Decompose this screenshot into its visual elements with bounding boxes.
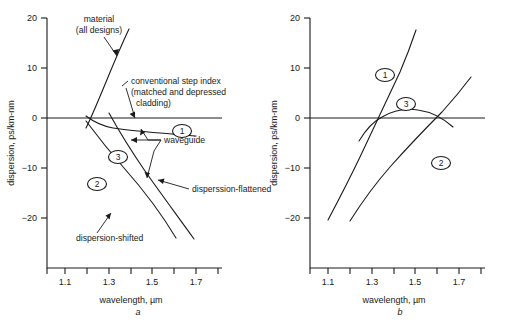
panel-a-curve-material	[86, 29, 129, 128]
panel-b-marker-3-label: 3	[404, 99, 409, 109]
panel-b-xaxis-title: wavelength, µm	[361, 295, 425, 305]
panel-a-marker-1: 1	[173, 125, 192, 138]
panel-a-xtick-1-1: 1.1	[59, 277, 72, 287]
panel-a-annot-conventional-line1: conventional step index	[131, 76, 222, 86]
panel-b-xtick-1-7: 1.7	[453, 277, 466, 287]
panel-a-yaxis-title: dispersion, ps/km-nm	[6, 100, 16, 186]
panel-a-marker-3-label: 3	[116, 152, 121, 162]
panel-b-xtick-1-3: 1.3	[366, 277, 379, 287]
dispersion-figure: 20 10 0 −10 −20 1.1 1.3 1.5 1.7 wav	[0, 0, 527, 328]
panel-a-leader-waveguide-down	[147, 140, 161, 178]
panel-a-marker-1-label: 1	[180, 126, 185, 136]
panel-b: 20 10 0 −10 −20 1.1 1.3 1.5 1.7 waveleng…	[269, 13, 485, 317]
panel-a-ytick-0: 0	[32, 113, 37, 123]
panel-a-xtick-1-3: 1.3	[103, 277, 116, 287]
panel-a-arrowhead-flattened	[158, 179, 165, 185]
panel-b-ytick-0: 0	[295, 113, 300, 123]
panel-a: 20 10 0 −10 −20 1.1 1.3 1.5 1.7 wav	[6, 13, 272, 317]
panel-b-ytick-neg20: −20	[285, 213, 300, 223]
panel-a-ytick-neg10: −10	[22, 163, 37, 173]
panel-a-ytick-20: 20	[27, 13, 37, 23]
panel-a-arrowhead-shifted	[106, 213, 112, 220]
panel-a-xtick-1-7: 1.7	[190, 277, 203, 287]
panel-a-letter: a	[135, 307, 140, 317]
panel-b-ytick-neg10: −10	[285, 163, 300, 173]
panel-b-yaxis-title: dispersion, ps/km-nm	[269, 100, 279, 186]
panel-a-xtick-1-5: 1.5	[146, 277, 159, 287]
panel-a-xaxis-title: wavelength, µm	[98, 295, 162, 305]
panel-a-annot-material-line2: (all designs)	[76, 25, 122, 35]
panel-a-y-ticks	[41, 18, 47, 218]
panel-a-annot-shifted: dispersion-shifted	[76, 233, 144, 243]
panel-b-x-ticks	[310, 268, 481, 274]
panel-a-annot-flattened: disperssion-flattened	[192, 184, 272, 194]
figure-container: 20 10 0 −10 −20 1.1 1.3 1.5 1.7 wav	[0, 0, 527, 328]
panel-a-ytick-neg20: −20	[22, 213, 37, 223]
panel-a-marker-3: 3	[109, 151, 128, 164]
panel-b-marker-2-label: 2	[439, 158, 444, 168]
panel-a-leader-waveguide-up	[141, 129, 161, 140]
panel-b-xtick-1-5: 1.5	[409, 277, 422, 287]
panel-a-annot-material-line1: material	[84, 14, 115, 24]
panel-b-y-ticks	[304, 18, 310, 218]
panel-a-marker-2: 2	[88, 178, 107, 191]
panel-b-curve-3	[359, 109, 453, 141]
panel-a-ytick-10: 10	[27, 63, 37, 73]
panel-b-ytick-10: 10	[290, 63, 300, 73]
panel-a-annot-conventional-line2: (matched and depressed	[131, 87, 226, 97]
panel-a-leader-conventional-tick	[122, 81, 128, 86]
panel-b-letter: b	[397, 307, 402, 317]
panel-a-arrowhead-waveguide-left	[131, 137, 137, 143]
panel-a-x-ticks	[47, 268, 218, 274]
panel-b-marker-3: 3	[397, 98, 416, 111]
panel-b-axis-frame	[310, 18, 485, 268]
panel-b-curve-1	[328, 30, 416, 220]
panel-b-marker-1: 1	[376, 69, 395, 82]
panel-a-annot-conventional-line3: cladding)	[136, 98, 171, 108]
panel-a-arrowhead-conventional	[130, 112, 136, 119]
panel-a-marker-2-label: 2	[95, 179, 100, 189]
panel-b-marker-2: 2	[432, 157, 451, 170]
panel-b-marker-1-label: 1	[383, 70, 388, 80]
panel-b-ytick-20: 20	[290, 13, 300, 23]
panel-b-xtick-1-1: 1.1	[322, 277, 335, 287]
